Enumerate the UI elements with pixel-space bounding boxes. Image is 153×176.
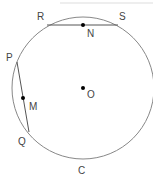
label-p: P [6, 52, 13, 63]
circle-diagram: R S N P M O Q C [0, 0, 153, 176]
label-n: N [87, 28, 94, 39]
label-s: S [119, 11, 126, 22]
point-o [81, 86, 85, 90]
label-c: C [78, 165, 85, 176]
label-m: M [29, 101, 37, 112]
label-r: R [37, 11, 44, 22]
point-n [81, 23, 85, 27]
point-m [21, 96, 25, 100]
label-q: Q [18, 136, 26, 147]
label-o: O [87, 89, 95, 100]
